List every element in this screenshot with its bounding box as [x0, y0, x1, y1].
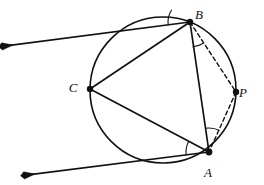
- tangent-ray-b: [2, 22, 190, 46]
- angle-arc-a-tangent-chord: [186, 141, 189, 155]
- chord-p-a-dashed: [209, 92, 236, 152]
- main-circle: [90, 17, 236, 163]
- geometry-canvas: BCPA: [0, 0, 264, 185]
- tangent-ray-a: [24, 152, 209, 175]
- vertex-label-c: C: [69, 80, 78, 95]
- tangent-ray-a-arrowhead: [21, 172, 35, 179]
- vertex-dot-a: [206, 149, 213, 156]
- chord-b-p-dashed: [190, 22, 236, 92]
- tangent-ray-b-arrowhead: [0, 43, 13, 50]
- angle-arc-a-inscribed: [205, 128, 219, 130]
- vertex-labels-layer: BCPA: [69, 7, 247, 180]
- circle-geometry-diagram: BCPA: [0, 0, 264, 185]
- vertex-label-a: A: [203, 165, 212, 180]
- vertex-label-b: B: [195, 7, 203, 22]
- chord-b-a: [190, 22, 209, 152]
- vertex-label-p: P: [238, 85, 247, 100]
- vertex-dot-c: [87, 86, 93, 92]
- chord-b-c: [90, 22, 190, 89]
- vertex-dot-b: [187, 19, 193, 25]
- angle-arc-b-inscribed: [193, 43, 204, 47]
- circle-layer: [90, 17, 236, 163]
- chord-c-a: [90, 89, 209, 152]
- chords-layer: [90, 22, 236, 152]
